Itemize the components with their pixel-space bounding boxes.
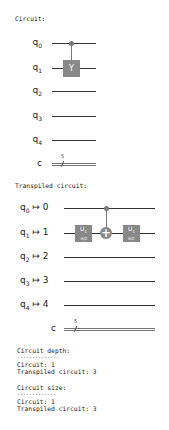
cx-control-line [106,208,107,228]
qubit-label-q1: q1 [28,62,42,74]
depth-transpiled: Transpiled circuit: 3 [17,368,97,376]
qubit-label-q0: q0 [28,37,42,49]
qubit-wire-q2 [52,91,96,92]
qubit-wire-q3 [52,116,96,117]
size-rule: ------------- [17,390,56,398]
qubit-wire-q4 [52,140,96,141]
classical-wire-c [52,163,96,166]
qubit-map-label-q0: q0 ↦ 0 [20,202,56,214]
control-dot-icon [104,206,109,211]
circuit-heading: Circuit: [15,15,45,23]
classical-size: 5 [61,153,64,159]
qubit-map-label-q1: q1 ↦ 1 [20,227,56,239]
classical-label-c: c [48,323,56,333]
u1-gate-neg: U1 -π/2 [75,225,92,242]
qubit-map-label-q3: q3 ↦ 3 [20,275,56,287]
u1-gate-pos: U1 π/2 [123,225,140,242]
qubit-map-label-q4: q4 ↦ 4 [20,299,56,311]
y-gate: Y [63,60,80,77]
size-transpiled: Transpiled circuit: 3 [17,405,97,413]
qubit-label-q2: q2 [28,85,42,97]
classical-size: 5 [74,318,77,324]
depth-rule: -------------- [17,353,59,361]
classical-label-c: c [28,158,42,168]
qubit-label-q4: q4 [28,134,42,146]
qubit-wire-q4 [64,305,155,306]
control-dot-icon [69,41,74,46]
cx-target-plus-icon: + [100,227,112,239]
qubit-wire-q0 [52,43,96,44]
qubit-map-label-q2: q2 ↦ 2 [20,251,56,263]
qubit-label-q3: q3 [28,110,42,122]
classical-wire-c [64,328,155,331]
transpiled-heading: Transpiled circuit: [15,182,87,190]
qubit-wire-q2 [64,257,155,258]
qubit-wire-q0 [64,208,155,209]
qubit-wire-q3 [64,281,155,282]
